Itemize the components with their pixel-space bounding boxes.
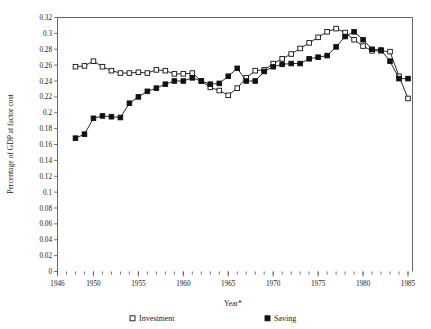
data-point-marker xyxy=(352,37,357,42)
data-point-marker xyxy=(298,61,303,66)
y-tick-label: 0.1 xyxy=(43,189,52,197)
data-point-marker xyxy=(334,26,339,31)
data-point-marker xyxy=(307,56,312,61)
data-point-marker xyxy=(163,68,168,73)
x-tick-label: 1985 xyxy=(401,280,416,288)
data-point-marker xyxy=(109,114,114,119)
data-point-marker xyxy=(73,136,78,141)
data-point-marker xyxy=(235,86,240,91)
data-point-marker xyxy=(361,37,366,42)
data-point-marker xyxy=(325,29,330,34)
data-point-marker xyxy=(226,74,231,79)
y-tick-label: 0.22 xyxy=(39,93,52,101)
plot-frame xyxy=(58,18,413,272)
series-line-saving xyxy=(75,32,408,138)
data-point-marker xyxy=(136,95,141,100)
data-point-marker xyxy=(154,68,159,73)
y-tick-label: 0.12 xyxy=(39,173,52,181)
data-point-marker xyxy=(253,79,258,84)
data-point-marker xyxy=(244,79,249,84)
data-point-marker xyxy=(217,81,222,86)
data-point-marker xyxy=(343,34,348,39)
legend-label-saving: Saving xyxy=(274,314,296,323)
chart-figure: Percentage of GDP at factor cost 00.020.… xyxy=(0,0,431,329)
y-tick-label: 0.08 xyxy=(39,205,52,213)
y-tick-label: 0.2 xyxy=(43,109,52,117)
data-point-marker xyxy=(406,76,411,81)
data-point-marker xyxy=(289,61,294,66)
x-tick-label: 1975 xyxy=(311,280,326,288)
data-point-marker xyxy=(181,79,186,84)
series-investment xyxy=(73,26,410,100)
x-tick-label: 1955 xyxy=(131,280,146,288)
data-point-marker xyxy=(388,49,393,54)
data-point-marker xyxy=(253,68,258,73)
y-tick-label: 0.04 xyxy=(39,236,52,244)
data-point-marker xyxy=(370,47,375,52)
x-tick-label: 1960 xyxy=(176,280,191,288)
legend-label-investment: Investment xyxy=(139,314,175,323)
y-axis-title: Percentage of GDP at factor cost xyxy=(6,93,15,193)
data-point-marker xyxy=(163,82,168,87)
x-tick-label: 1946 xyxy=(50,280,65,288)
data-point-marker xyxy=(172,79,177,84)
data-point-marker xyxy=(73,64,78,69)
data-point-marker xyxy=(361,44,366,49)
data-point-marker xyxy=(235,66,240,71)
y-axis-ticks: 00.020.040.060.080.10.120.140.160.180.20… xyxy=(39,14,57,276)
data-point-marker xyxy=(127,71,132,76)
legend-marker-investment xyxy=(130,316,135,321)
y-tick-label: 0.14 xyxy=(39,157,52,165)
y-tick-label: 0.26 xyxy=(39,62,52,70)
data-point-marker xyxy=(82,132,87,137)
chart-legend: InvestmentSaving xyxy=(130,314,296,323)
x-tick-label: 1970 xyxy=(266,280,281,288)
data-point-marker xyxy=(118,115,123,120)
x-axis-minor-ticks xyxy=(58,272,409,275)
x-axis-ticks: 194619501955196019651970197519801985 xyxy=(50,272,415,288)
y-tick-label: 0.18 xyxy=(39,125,52,133)
data-point-marker xyxy=(406,96,411,101)
data-point-marker xyxy=(289,52,294,57)
data-point-marker xyxy=(190,71,195,76)
data-point-marker xyxy=(379,48,384,53)
y-axis-title-label: Percentage of GDP at factor cost xyxy=(6,93,15,193)
data-point-marker xyxy=(208,82,213,87)
data-point-marker xyxy=(145,89,150,94)
data-point-marker xyxy=(271,64,276,69)
y-tick-label: 0.24 xyxy=(39,78,52,86)
x-tick-label: 1980 xyxy=(356,280,371,288)
data-point-marker xyxy=(280,62,285,67)
data-point-marker xyxy=(217,88,222,93)
savings-investment-line-chart: Percentage of GDP at factor cost 00.020.… xyxy=(0,0,431,329)
data-point-marker xyxy=(262,69,267,74)
data-point-marker xyxy=(352,29,357,34)
data-point-marker xyxy=(109,68,114,73)
y-tick-label: 0.28 xyxy=(39,46,52,54)
series-line-investment xyxy=(75,29,408,99)
data-point-marker xyxy=(181,72,186,77)
data-point-marker xyxy=(325,53,330,58)
data-point-marker xyxy=(190,76,195,81)
data-point-marker xyxy=(226,93,231,98)
legend-marker-saving xyxy=(265,316,270,321)
y-tick-label: 0.16 xyxy=(39,141,52,149)
y-tick-label: 0.3 xyxy=(43,30,52,38)
x-tick-label: 1950 xyxy=(86,280,101,288)
data-point-marker xyxy=(100,114,105,119)
y-tick-label: 0.32 xyxy=(39,14,52,22)
data-point-marker xyxy=(82,64,87,69)
data-point-marker xyxy=(100,64,105,69)
data-point-marker xyxy=(118,71,123,76)
y-tick-label: 0.02 xyxy=(39,252,52,260)
data-point-marker xyxy=(316,55,321,60)
data-point-marker xyxy=(91,116,96,121)
data-point-marker xyxy=(334,45,339,50)
x-axis-title-label: Year* xyxy=(224,299,242,308)
data-point-marker xyxy=(280,56,285,61)
data-point-marker xyxy=(127,101,132,106)
data-series-layer xyxy=(73,26,410,140)
data-point-marker xyxy=(388,59,393,64)
y-tick-label: 0.06 xyxy=(39,220,52,228)
x-tick-label: 1965 xyxy=(221,280,236,288)
